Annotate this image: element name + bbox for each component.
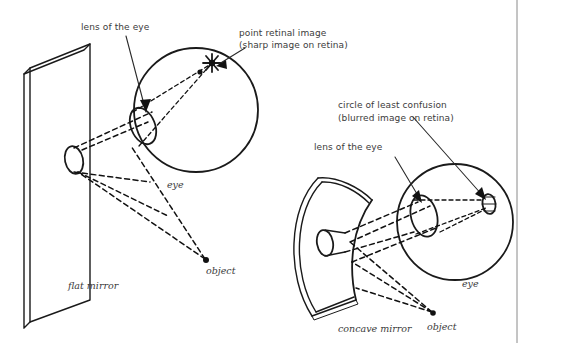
label-point-retinal-image-line1: point retinal image (239, 28, 327, 38)
eye-circle-left (134, 48, 258, 172)
label-eye-right: eye (462, 278, 479, 289)
label-lens-of-the-eye-left: lens of the eye (81, 22, 150, 32)
label-eye-left: eye (167, 179, 184, 190)
label-concave-mirror: concave mirror (338, 323, 413, 334)
label-object-right: object (427, 321, 457, 332)
label-object-left: object (206, 265, 236, 276)
virtual-image-ellipse-right (315, 229, 345, 257)
label-flat-mirror: flat mirror (67, 280, 120, 291)
label-circle-least-confusion-line2: (blurred image on retina) (338, 113, 454, 123)
light-rays-right (345, 200, 486, 312)
point-retinal-image-marker (197, 54, 221, 75)
label-lens-of-the-eye-right: lens of the eye (314, 142, 383, 152)
object-point-left (203, 257, 209, 263)
eye-circle-right (397, 164, 513, 280)
label-point-retinal-image-line2: (sharp image on retina) (239, 40, 348, 50)
leader-lens-left (126, 36, 151, 112)
leader-lens-right (395, 157, 422, 203)
label-circle-least-confusion-line1: circle of least confusion (338, 100, 447, 110)
light-rays-left (74, 64, 211, 259)
leader-circle-least-confusion (413, 117, 486, 200)
flat-mirror-diagram (24, 36, 258, 328)
figure-canvas: lens of the eye point retinal image (sha… (0, 0, 561, 343)
optics-figure: lens of the eye point retinal image (sha… (0, 0, 561, 343)
object-point-right (430, 310, 436, 316)
